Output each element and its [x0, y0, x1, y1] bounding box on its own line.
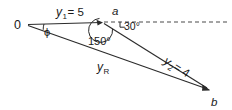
point-origin-label: 0: [14, 18, 21, 32]
figure-canvas: 0 a b y 1 = 5 y 2 = 4 y R ϕ 150° 30°: [0, 0, 232, 110]
vector-y2-line: [104, 24, 207, 89]
vector-yR-arrowhead: [202, 85, 210, 91]
vector-diagram-figure: 0 a b y 1 = 5 y 2 = 4 y R ϕ 150° 30°: [0, 0, 232, 110]
vector-y1-arrowhead: [97, 20, 104, 26]
vector-yR-label-subscript: R: [104, 67, 110, 76]
point-a-label: a: [112, 5, 118, 17]
vector-y1-label-group: y 1 = 5: [55, 5, 84, 21]
vector-y1-label-value: = 5: [68, 6, 84, 18]
point-b-label: b: [211, 96, 218, 108]
angle-phi-label: ϕ: [44, 26, 50, 38]
vector-yR-line: [28, 26, 206, 89]
angle-150-label: 150°: [88, 35, 111, 47]
vector-yR-label-group: y R: [96, 60, 110, 76]
angle-30-label: 30°: [124, 20, 140, 32]
